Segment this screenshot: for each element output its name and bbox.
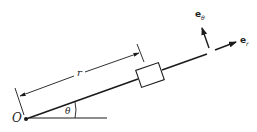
unit-vector-theta-label: eθ (195, 10, 205, 21)
unit-vector-r-label: er (240, 36, 249, 47)
dimension-line-right (85, 53, 139, 72)
dimension-line-left (20, 76, 74, 96)
diagram-graphics (0, 0, 257, 132)
origin-label: O (12, 112, 22, 124)
unit-vector-theta-arrow (202, 28, 209, 48)
rod-line-outer (162, 54, 207, 70)
polar-coordinates-diagram: O r θ eθ er (0, 0, 257, 132)
rod-line (26, 79, 138, 119)
radius-label: r (77, 68, 82, 78)
angle-label: θ (65, 107, 70, 116)
bead-box (136, 63, 165, 88)
origin-point (24, 117, 28, 121)
angle-arc (75, 102, 76, 118)
unit-vector-r-arrow (215, 42, 236, 50)
